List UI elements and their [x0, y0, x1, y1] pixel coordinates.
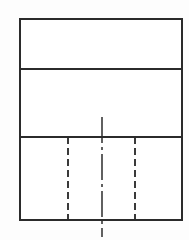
engineering-drawing: [0, 0, 189, 240]
bottom-view-face: [20, 137, 182, 220]
middle-view-face: [20, 69, 182, 137]
drawing-canvas: [0, 0, 189, 240]
top-view-face: [20, 19, 182, 69]
